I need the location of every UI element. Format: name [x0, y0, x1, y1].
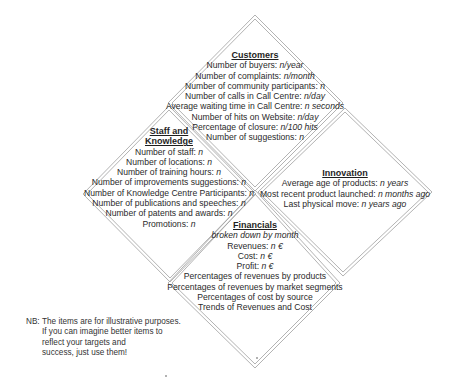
list-item: Last physical move: n years ago — [245, 199, 445, 209]
list-item: Number of calls in Call Centre: n/day — [150, 91, 360, 101]
list-item: Percentages of revenues by market segmen… — [150, 282, 360, 292]
list-item: Percentages of revenues by products — [150, 271, 360, 281]
list-item: Profit: n € — [150, 261, 360, 271]
list-item: Percentages of cost by source — [150, 292, 360, 302]
speck — [256, 357, 258, 359]
innovation-title: Innovation — [245, 168, 445, 178]
list-item: Number of training hours: n — [64, 167, 274, 177]
list-item: Cost: n € — [150, 251, 360, 261]
list-item: Revenues: n € — [150, 241, 360, 251]
list-item: Number of complaints: n/month — [150, 71, 360, 81]
list-item: Number of locations: n — [64, 157, 274, 167]
list-item: Number of community participants: n — [150, 81, 360, 91]
list-item: Number of hits on Website: n/day — [150, 112, 360, 122]
financials-title: Financials — [150, 220, 360, 230]
list-item: Average age of products: n years — [245, 178, 445, 188]
list-item: Number of staff: n — [64, 147, 274, 157]
financials-block: Financials broken down by month Revenues… — [150, 220, 360, 313]
list-item: Most recent product launched: n months a… — [245, 189, 445, 199]
footnote-label: NB: — [26, 317, 40, 327]
list-item: Number of Knowledge Centre Participants:… — [64, 188, 274, 198]
financials-subtitle: broken down by month — [150, 230, 360, 240]
staff-block: Staff and Knowledge Number of staff: n N… — [64, 126, 274, 229]
staff-title-line1: Staff and — [64, 126, 274, 136]
list-item: Average waiting time in Call Centre: n s… — [150, 101, 360, 111]
customers-title: Customers — [150, 50, 360, 60]
innovation-block: Innovation Average age of products: n ye… — [245, 168, 445, 209]
footnote-text: The items are for illustrative purposes.… — [42, 317, 181, 359]
speck — [165, 375, 167, 377]
list-item: Trends of Revenues and Cost — [150, 302, 360, 312]
list-item: Number of patents and awards: n — [64, 208, 274, 218]
list-item: Number of improvements suggestions: n — [64, 177, 274, 187]
staff-title-line2: Knowledge — [64, 136, 274, 146]
list-item: Number of publications and speeches: n — [64, 198, 274, 208]
list-item: Number of buyers: n/year — [150, 60, 360, 70]
